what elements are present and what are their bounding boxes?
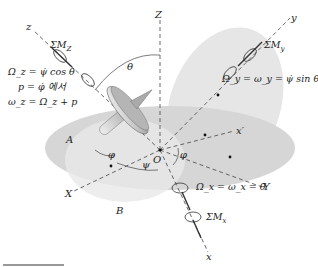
moment-x-label: ΣMx [206, 212, 226, 225]
y-axis-label: y [291, 13, 297, 23]
tilted-plane [65, 118, 185, 202]
equation-omega-x: Ω_x = ω_x = θ̇ [196, 182, 266, 192]
Z-axis-label: Z [155, 10, 162, 20]
equation-omega-z-total: ω_z = Ω_z + p [8, 97, 77, 107]
phi-label-2: φ [180, 150, 187, 160]
point-B-label: B [116, 206, 123, 216]
theta-label: θ [127, 62, 133, 72]
z-axis-label: z [26, 22, 31, 32]
equation-omega-z: Ω_z = ψ̇ cos θ [8, 67, 75, 77]
x-prime-label: x′ [236, 126, 244, 136]
gyroscope-diagram: z Z y Y X x x′ O A B θ φ φ ψ ΣMZ ΣMy ΣMx… [0, 0, 318, 267]
origin-label: O [153, 155, 161, 165]
X-axis-label: X [65, 189, 72, 199]
point-A-label: A [66, 135, 73, 145]
equation-omega-y: Ω_y = ω_y = ψ̇ sin θ [222, 74, 318, 84]
psi-label: ψ [142, 160, 150, 170]
x-axis-label: x [206, 252, 212, 262]
phi-label-1: φ [108, 150, 115, 160]
equation-p: p = φ̇ 에서 [18, 82, 66, 92]
moment-z-label: ΣMZ [50, 40, 71, 53]
moment-y-label: ΣMy [264, 40, 284, 53]
